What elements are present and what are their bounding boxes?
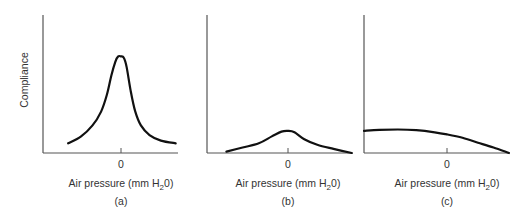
panel-c-x-tick-label: 0 xyxy=(444,158,450,170)
panel-c-curve xyxy=(364,130,509,154)
panel-c-label: (c) xyxy=(441,195,453,207)
y-axis-label: Compliance xyxy=(18,52,30,108)
tympanogram-figure: Compliance 0Air pressure (mm H20)(a)0Air… xyxy=(0,0,524,220)
panel-c-x-axis-label: Air pressure (mm H20) xyxy=(395,177,500,192)
panel-a-x-axis-label: Air pressure (mm H20) xyxy=(69,177,174,192)
panel-b-label: (b) xyxy=(282,195,295,207)
panel-b-curve xyxy=(226,131,351,153)
panel-b-x-tick-label: 0 xyxy=(285,158,291,170)
panel-b-x-axis-label: Air pressure (mm H20) xyxy=(236,177,341,192)
panel-a-curve xyxy=(68,56,176,143)
panel-a-label: (a) xyxy=(115,195,128,207)
panel-a-x-tick-label: 0 xyxy=(118,158,124,170)
